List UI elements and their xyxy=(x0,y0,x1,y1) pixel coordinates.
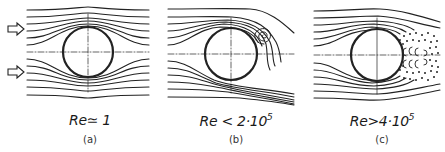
turbulent-eddies xyxy=(399,32,439,81)
panel-b-re-exponent: 5 xyxy=(267,112,272,122)
panel-c-re-exponent: 5 xyxy=(409,112,414,122)
panel-b-re-base: Re < 2·10 xyxy=(200,113,267,129)
panel-a-centerlines xyxy=(27,14,149,92)
panel-c-caption: (c) xyxy=(375,134,388,145)
inflow-arrow-icon xyxy=(8,66,24,78)
cylinder-flow-figure xyxy=(0,0,445,152)
inflow-arrow-icon xyxy=(8,23,24,35)
panel-a-reynolds-label: Re≃ 1 xyxy=(69,112,111,128)
panel-b-reynolds-label: Re < 2·105 xyxy=(200,112,273,129)
panel-b-centerlines xyxy=(168,18,294,93)
panel-b-caption: (b) xyxy=(229,134,243,145)
panel-c-re-base: Re>4·10 xyxy=(350,113,409,129)
panel-a-caption: (a) xyxy=(83,134,97,145)
panel-c-reynolds-label: Re>4·105 xyxy=(350,112,415,129)
turbulent-wake xyxy=(403,47,427,68)
